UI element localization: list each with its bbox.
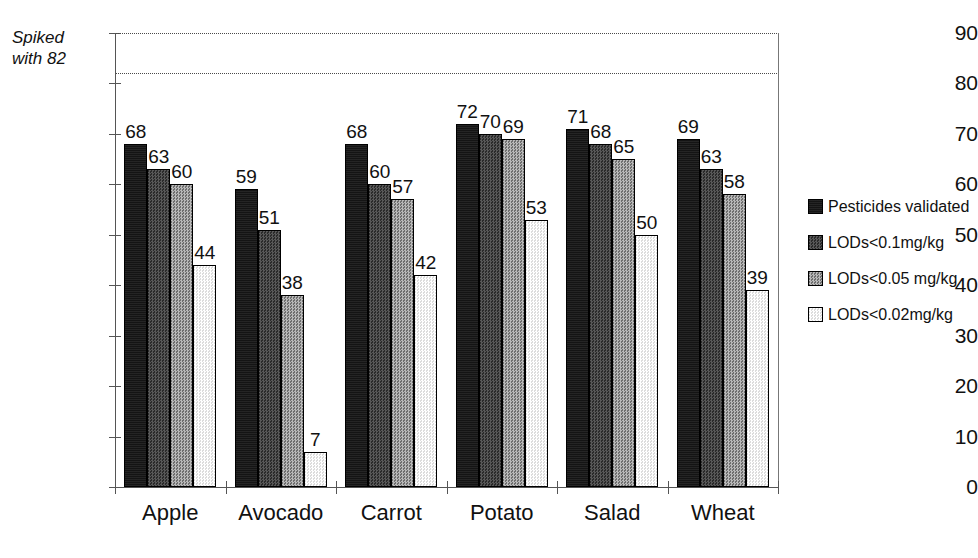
- bar-value-label: 50: [617, 213, 677, 232]
- bar-slot: 63: [700, 33, 723, 487]
- legend-item[interactable]: LODs<0.02mg/kg: [808, 296, 976, 332]
- bar-group-bars: 72706953: [456, 33, 548, 487]
- bar[interactable]: [566, 129, 589, 487]
- bar-slot: 70: [479, 33, 502, 487]
- bar-value-label: 44: [175, 243, 235, 262]
- bar-slot: 68: [124, 33, 147, 487]
- bar[interactable]: [391, 199, 414, 487]
- bar-slot: 39: [746, 33, 769, 487]
- bar-slot: 50: [635, 33, 658, 487]
- x-axis-tick-mark: [557, 481, 558, 494]
- bar[interactable]: [677, 139, 700, 487]
- legend-swatch-icon: [808, 307, 823, 322]
- y-axis-tick-label: 70: [878, 123, 978, 144]
- legend-item[interactable]: LODs<0.1mg/kg: [808, 224, 976, 260]
- bar[interactable]: [258, 230, 281, 487]
- bar-slot: 68: [345, 33, 368, 487]
- bar-group-bars: 5951387: [235, 33, 327, 487]
- bar-slot: 51: [258, 33, 281, 487]
- bar-slot: 38: [281, 33, 304, 487]
- bar-chart: Spiked with 82 0102030405060708090 68636…: [0, 0, 978, 558]
- bar-group-bars: 69635839: [677, 33, 769, 487]
- bar-group: 72706953: [456, 33, 548, 487]
- bar[interactable]: [368, 184, 391, 487]
- x-axis-tick-mark: [447, 481, 448, 494]
- bar-group-bars: 71686550: [566, 33, 658, 487]
- x-axis-tick-mark: [778, 481, 779, 494]
- x-axis-category-label: Wheat: [643, 500, 803, 526]
- bar-slot: 69: [677, 33, 700, 487]
- bar-slot: 7: [304, 33, 327, 487]
- bar[interactable]: [235, 189, 258, 487]
- bar-group-bars: 68636044: [124, 33, 216, 487]
- legend-item[interactable]: Pesticides validated: [808, 188, 976, 224]
- legend-swatch-icon: [808, 271, 823, 286]
- bar[interactable]: [589, 144, 612, 487]
- bar[interactable]: [170, 184, 193, 487]
- bar-slot: 58: [723, 33, 746, 487]
- y-axis-tick-label: 80: [878, 72, 978, 93]
- y-axis-tick-label: 20: [878, 375, 978, 396]
- bar[interactable]: [502, 139, 525, 487]
- y-axis-tick-label: 10: [878, 426, 978, 447]
- bar[interactable]: [414, 275, 437, 487]
- bar-slot: 44: [193, 33, 216, 487]
- bar-group: 68636044: [124, 33, 216, 487]
- bar-group: 69635839: [677, 33, 769, 487]
- bar-group: 68605742: [345, 33, 437, 487]
- spiked-annotation: Spiked with 82: [12, 27, 104, 69]
- bar-value-label: 7: [285, 430, 345, 449]
- legend-item-label: LODs<0.05 mg/kg: [828, 270, 957, 287]
- y-axis-tick-label: 90: [878, 22, 978, 43]
- bar-slot: 65: [612, 33, 635, 487]
- chart-legend: Pesticides validatedLODs<0.1mg/kgLODs<0.…: [808, 188, 976, 332]
- bar-slot: 71: [566, 33, 589, 487]
- bar-group-bars: 68605742: [345, 33, 437, 487]
- x-axis-tick-mark: [226, 481, 227, 494]
- bar[interactable]: [746, 290, 769, 487]
- bar[interactable]: [193, 265, 216, 487]
- legend-swatch-icon: [808, 235, 823, 250]
- bar[interactable]: [124, 144, 147, 487]
- spiked-annotation-line2: with 82: [12, 48, 104, 69]
- legend-item-label: LODs<0.1mg/kg: [828, 234, 944, 251]
- bar-slot: 59: [235, 33, 258, 487]
- plot-area: 6863604459513876860574272706953716865506…: [115, 33, 778, 487]
- bar[interactable]: [456, 124, 479, 487]
- bar[interactable]: [345, 144, 368, 487]
- bar[interactable]: [612, 159, 635, 487]
- bar-group: 5951387: [235, 33, 327, 487]
- bar-group: 71686550: [566, 33, 658, 487]
- x-axis-tick-mark: [336, 481, 337, 494]
- legend-item[interactable]: LODs<0.05 mg/kg: [808, 260, 976, 296]
- plot-right-border: [778, 33, 779, 487]
- bar[interactable]: [479, 134, 502, 487]
- bar-value-label: 39: [727, 268, 787, 287]
- bar[interactable]: [635, 235, 658, 487]
- bar-slot: 69: [502, 33, 525, 487]
- legend-item-label: Pesticides validated: [828, 198, 969, 215]
- bar[interactable]: [281, 295, 304, 487]
- legend-item-label: LODs<0.02mg/kg: [828, 306, 953, 323]
- bar[interactable]: [700, 169, 723, 487]
- bar-slot: 60: [368, 33, 391, 487]
- x-axis-tick-mark: [668, 481, 669, 494]
- spiked-annotation-line1: Spiked: [12, 27, 104, 48]
- bar-slot: 68: [589, 33, 612, 487]
- bar[interactable]: [304, 452, 327, 487]
- bar[interactable]: [525, 220, 548, 487]
- x-axis-tick-mark: [115, 481, 116, 494]
- bar-slot: 63: [147, 33, 170, 487]
- bar-slot: 42: [414, 33, 437, 487]
- bar-value-label: 53: [506, 198, 566, 217]
- bar-slot: 53: [525, 33, 548, 487]
- bar[interactable]: [723, 194, 746, 487]
- legend-swatch-icon: [808, 199, 823, 214]
- y-axis-tick-label: 0: [878, 476, 978, 497]
- bar[interactable]: [147, 169, 170, 487]
- bar-slot: 72: [456, 33, 479, 487]
- bar-value-label: 42: [396, 253, 456, 272]
